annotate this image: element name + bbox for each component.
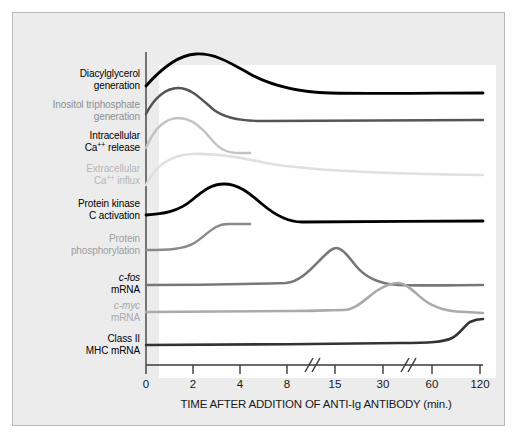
label-line-1: Inositol triphosphate — [53, 99, 140, 110]
label-line-1: Protein kinase — [78, 198, 140, 209]
label-extracellular-ca-influx: Extracellular Ca++ influx — [4, 163, 140, 186]
label-line-2: C activation — [4, 210, 140, 222]
x-tick-label-120: 120 — [465, 378, 495, 390]
label-protein-kinase-c-activation: Protein kinase C activation — [4, 198, 140, 221]
label-line-2: generation — [4, 80, 140, 92]
curve-class-ii-mhc-mrna — [146, 319, 483, 345]
x-tick-label-60: 60 — [417, 378, 447, 390]
label-c-fos-mrna: c-fos mRNA — [4, 272, 140, 295]
label-line-1: Class II — [107, 333, 140, 344]
curve-protein-phosphorylation — [146, 224, 250, 250]
label-c-myc-mrna: c-myc mRNA — [4, 300, 140, 323]
label-line-2: mRNA — [4, 284, 140, 296]
label-line-2: Ca++ release — [4, 142, 140, 154]
x-tick-label-8: 8 — [272, 378, 302, 390]
label-line-1: c-fos — [119, 272, 140, 283]
figure-root: Diacylglycerol generation Inositol triph… — [0, 0, 516, 440]
curve-intracellular-ca-release — [146, 118, 250, 153]
x-tick-label-4: 4 — [225, 378, 255, 390]
label-intracellular-ca-release: Intracellular Ca++ release — [4, 130, 140, 153]
curve-protein-kinase-c-activation — [146, 184, 483, 222]
label-protein-phosphorylation: Protein phosphorylation — [4, 233, 140, 256]
label-inositol-triphosphate-generation: Inositol triphosphate generation — [4, 99, 140, 122]
curve-c-fos-mrna — [146, 248, 483, 285]
curve-c-myc-mrna — [146, 283, 483, 313]
curve-diacylglycerol-generation — [146, 54, 483, 94]
label-diacylglycerol-generation: Diacylglycerol generation — [4, 68, 140, 91]
x-tick-label-15: 15 — [320, 378, 350, 390]
curve-extracellular-ca-influx — [146, 154, 483, 185]
label-line-1: Protein — [109, 233, 140, 244]
label-line-2: phosphorylation — [4, 245, 140, 257]
label-line-2: MHC mRNA — [4, 345, 140, 357]
label-line-2: mRNA — [4, 312, 140, 324]
x-tick-label-2: 2 — [178, 378, 208, 390]
superscript-plus-plus: ++ — [97, 140, 105, 147]
x-tick-label-0: 0 — [131, 378, 161, 390]
label-class-ii-mhc-mrna: Class II MHC mRNA — [4, 333, 140, 356]
label-line-1: Diacylglycerol — [80, 68, 140, 79]
x-tick-label-30: 30 — [368, 378, 398, 390]
label-line-1: c-myc — [114, 300, 140, 311]
x-axis-title: TIME AFTER ADDITION OF ANTI-Ig ANTIBODY … — [146, 398, 486, 410]
superscript-plus-plus: ++ — [107, 173, 115, 180]
label-line-2: generation — [4, 111, 140, 123]
label-line-2: Ca++ influx — [4, 175, 140, 187]
